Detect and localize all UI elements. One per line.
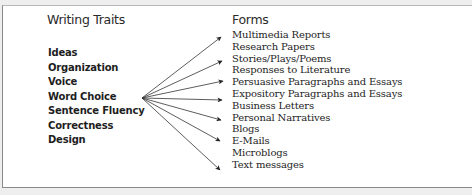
arrow-icon xyxy=(142,81,223,98)
arrow-icon xyxy=(142,98,220,141)
arrow-icon xyxy=(142,37,221,98)
arrow-icon-group xyxy=(142,37,223,170)
arrow-icon xyxy=(142,98,222,100)
arrow-icon xyxy=(142,61,222,98)
